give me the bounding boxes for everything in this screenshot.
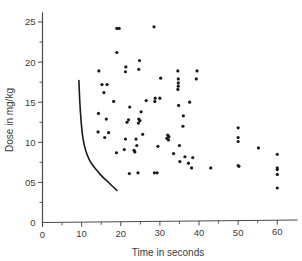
x-tick-label: 20 xyxy=(115,228,126,239)
data-point xyxy=(159,77,162,80)
y-tick-label: 10 xyxy=(25,137,36,148)
data-point xyxy=(176,88,179,91)
data-point xyxy=(133,150,136,153)
data-point xyxy=(105,117,108,120)
data-point xyxy=(237,140,240,143)
data-point xyxy=(177,104,180,107)
data-point xyxy=(181,125,184,128)
data-point xyxy=(276,173,279,176)
data-point xyxy=(153,171,156,174)
data-point xyxy=(176,69,179,72)
data-point xyxy=(137,121,140,124)
data-point xyxy=(107,131,110,134)
data-point xyxy=(124,70,127,73)
data-point xyxy=(237,136,240,139)
y-tick-label: 15 xyxy=(25,97,36,108)
y-tick-label: 05 xyxy=(25,177,36,188)
y-axis-tick-labels: 00510152025 xyxy=(25,16,36,227)
x-tick-label: 0 xyxy=(40,229,45,240)
data-point xyxy=(123,148,126,151)
data-point xyxy=(124,138,127,141)
data-point xyxy=(152,25,155,28)
scatter-plot-figure: 0102030405060 00510152025 Time in second… xyxy=(0,0,302,261)
x-tick-label: 30 xyxy=(155,227,166,238)
data-point xyxy=(276,153,279,156)
y-axis-title: Dose in mg/kg xyxy=(4,88,15,152)
data-point xyxy=(191,156,194,159)
data-point xyxy=(177,81,180,84)
data-point xyxy=(182,114,185,117)
data-point xyxy=(154,97,157,100)
x-axis-title: Time in seconds xyxy=(132,247,204,258)
data-point xyxy=(118,27,121,30)
data-point xyxy=(102,91,105,94)
data-point xyxy=(153,100,156,103)
data-point xyxy=(167,138,170,141)
data-point xyxy=(187,162,190,165)
data-point xyxy=(195,77,198,80)
data-point xyxy=(195,69,198,72)
data-point xyxy=(125,121,128,124)
data-point xyxy=(128,105,131,108)
data-point xyxy=(177,85,180,88)
data-point xyxy=(237,126,240,129)
data-point xyxy=(134,138,137,141)
data-point xyxy=(178,144,181,147)
data-point xyxy=(276,186,279,189)
data-point xyxy=(103,136,106,139)
scatter-data-points xyxy=(96,25,278,189)
y-tick-label: 0 xyxy=(30,217,35,228)
data-point xyxy=(138,59,141,62)
data-point xyxy=(276,168,279,171)
data-point xyxy=(178,160,181,163)
data-point xyxy=(190,166,193,169)
y-tick-label: 25 xyxy=(25,16,36,27)
x-tick-label: 40 xyxy=(194,227,205,238)
data-point xyxy=(209,166,212,169)
x-tick-label: 60 xyxy=(272,226,283,237)
x-tick-label: 50 xyxy=(233,227,244,238)
data-point xyxy=(124,65,127,68)
data-point xyxy=(137,68,140,71)
data-point xyxy=(97,69,100,72)
data-point xyxy=(115,151,118,154)
data-point xyxy=(128,172,131,175)
data-point xyxy=(188,101,191,104)
data-point xyxy=(177,77,180,80)
fitted-decay-curve xyxy=(79,81,117,191)
data-point xyxy=(145,99,148,102)
data-point xyxy=(96,130,99,133)
data-point xyxy=(156,145,159,148)
data-point xyxy=(172,152,175,155)
y-tick-label: 20 xyxy=(25,57,36,68)
data-point xyxy=(112,100,115,103)
data-point xyxy=(140,110,143,113)
data-point xyxy=(237,165,240,168)
data-point xyxy=(100,83,103,86)
x-tick-label: 10 xyxy=(76,228,87,239)
data-point xyxy=(105,83,108,86)
data-point xyxy=(156,171,159,174)
data-point xyxy=(135,144,138,147)
data-point xyxy=(257,146,260,149)
y-axis-tick-marks xyxy=(38,22,43,202)
x-axis-line xyxy=(43,220,298,223)
data-point xyxy=(141,133,144,136)
data-point xyxy=(183,155,186,158)
data-point xyxy=(136,171,139,174)
data-point xyxy=(115,51,118,54)
data-point xyxy=(97,112,100,115)
data-point xyxy=(158,97,161,100)
chart-canvas: 0102030405060 00510152025 Time in second… xyxy=(0,0,302,261)
x-axis-tick-labels: 0102030405060 xyxy=(40,226,283,239)
